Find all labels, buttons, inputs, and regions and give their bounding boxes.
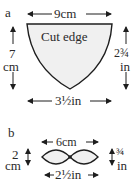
top-width-label-a: 9cm <box>54 7 76 20</box>
part-a-label: a <box>5 6 11 19</box>
cut-edge-label: Cut edge <box>41 30 88 43</box>
left-height-unit-b: cm <box>5 159 21 172</box>
right-height-unit-a: in <box>120 60 130 73</box>
bow-shape-left-lobe <box>42 150 70 164</box>
left-height-unit-a: cm <box>3 60 19 73</box>
right-height-value-b: ¾ <box>116 146 124 157</box>
right-height-unit-b: in <box>117 159 127 172</box>
bottom-width-label-b: 2½in <box>55 168 81 181</box>
top-width-label-b: 6cm <box>56 136 77 148</box>
part-b-label: b <box>8 126 15 139</box>
right-height-value-a: 2¾ <box>114 47 129 59</box>
bow-shape-right-lobe <box>70 150 98 164</box>
bottom-width-label-a: 3½in <box>55 94 81 107</box>
